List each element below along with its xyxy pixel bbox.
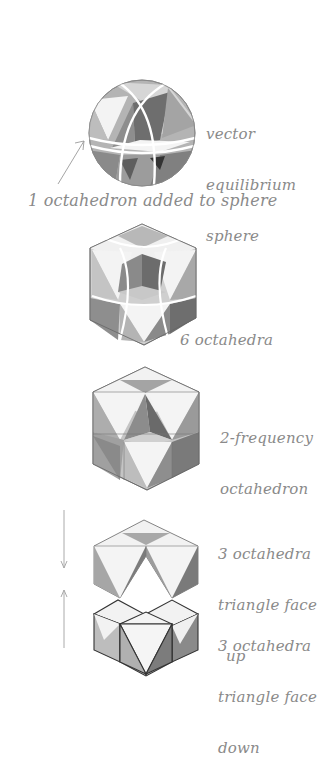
sphere-label-line-3: sphere	[206, 228, 296, 245]
face-down-label-line-1: 3 octahedra	[218, 638, 317, 655]
sphere-caption: 1 octahedron added to sphere	[28, 192, 277, 209]
down-arrow-icon	[61, 510, 67, 568]
arrow-pointer-icon	[58, 141, 84, 184]
three-octahedra-up-figure	[94, 520, 198, 598]
sphere-label-line-1: vector	[206, 126, 296, 143]
up-arrow-icon	[61, 590, 67, 648]
six-octahedra-figure	[90, 224, 196, 345]
two-frequency-octahedron-figure	[93, 367, 199, 490]
sphere-label: vector equilibrium sphere	[206, 92, 296, 279]
face-down-label-line-3: down	[218, 740, 317, 757]
sphere-figure	[58, 80, 196, 186]
face-down-label-line-2: triangle face	[218, 689, 317, 706]
two-frequency-label-line-2: octahedron	[220, 481, 313, 498]
two-frequency-label-line-1: 2-frequency	[220, 430, 313, 447]
face-up-label-line-1: 3 octahedra	[218, 546, 317, 563]
three-octahedra-down-figure	[94, 600, 198, 676]
six-octahedra-label: 6 octahedra	[180, 332, 273, 349]
face-down-label: 3 octahedra triangle face down	[218, 604, 317, 757]
